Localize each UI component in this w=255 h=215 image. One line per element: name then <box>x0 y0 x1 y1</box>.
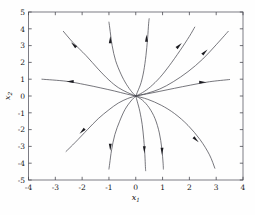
y-tick-label: -3 <box>18 142 26 151</box>
trajectory-curve <box>109 22 136 96</box>
flow-arrowhead <box>66 80 73 83</box>
trajectory-curve <box>136 19 149 96</box>
x-tick-label: 3 <box>214 183 219 192</box>
trajectory-curve <box>136 96 146 171</box>
y-tick-label: 3 <box>20 41 25 50</box>
y-tick-label: 0 <box>20 92 25 101</box>
trajectory-curve <box>42 79 136 96</box>
y-tick-label: 1 <box>20 75 25 84</box>
x-tick-label: -4 <box>25 183 33 192</box>
trajectory-curve <box>66 96 136 151</box>
trajectory-curve <box>136 31 229 96</box>
x-tick-label: 0 <box>133 183 138 192</box>
y-tick-label: 5 <box>20 8 25 17</box>
trajectory-curve <box>63 31 135 96</box>
x-tick-label: 4 <box>241 183 246 192</box>
x-tick-label: -3 <box>52 183 60 192</box>
y-tick-label: -5 <box>18 176 26 185</box>
x-tick-label: 2 <box>187 183 192 192</box>
y-tick-label: -2 <box>18 125 26 134</box>
flow-arrowhead <box>176 43 182 49</box>
flow-arrowhead <box>161 148 164 155</box>
flow-arrowhead <box>143 146 146 153</box>
y-tick-label: -4 <box>18 159 26 168</box>
x-tick-label: 1 <box>160 183 165 192</box>
trajectory-curve <box>136 96 164 169</box>
y-axis-title: x2 <box>3 92 13 101</box>
x-tick-label: -2 <box>78 183 86 192</box>
phase-portrait-plot: -4-3-2-101234-5-4-3-2-1012345x1x2 <box>0 0 255 215</box>
y-tick-label: -1 <box>18 109 25 118</box>
x-axis-title: x1 <box>132 193 140 203</box>
x-tick-label: -1 <box>105 183 112 192</box>
phase-portrait-figure: -4-3-2-101234-5-4-3-2-1012345x1x2 <box>0 0 255 215</box>
trajectory-curve <box>136 96 215 168</box>
y-tick-label: 4 <box>20 25 25 34</box>
y-tick-label: 2 <box>20 58 25 67</box>
flow-arrowhead <box>201 49 207 55</box>
flow-arrowhead <box>199 81 206 84</box>
